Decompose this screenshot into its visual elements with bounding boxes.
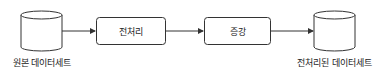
source-dataset-label: 원본 데이터세트 xyxy=(0,56,84,69)
augment-label: 증강 xyxy=(205,18,270,44)
preprocess-label: 전처리 xyxy=(97,18,165,44)
output-dataset-label: 전처리된 데이터세트 xyxy=(284,56,385,69)
source-dataset-cylinder xyxy=(21,11,62,51)
output-dataset-cylinder xyxy=(314,11,355,51)
